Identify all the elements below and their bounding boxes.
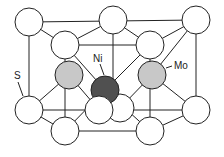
atom-s: [15, 96, 43, 124]
label-ni: Ni: [93, 54, 102, 64]
atom-s: [136, 117, 164, 145]
atom-s: [51, 31, 79, 59]
atom-s: [182, 6, 210, 34]
atom-s: [85, 96, 113, 124]
label-s: S: [14, 71, 21, 81]
atom-s: [15, 8, 43, 36]
crystal-structure-diagram: [0, 0, 224, 157]
atom-s: [51, 117, 79, 145]
atom-mo: [138, 61, 166, 89]
atom-s: [99, 6, 127, 34]
atom-s: [182, 96, 210, 124]
atom-mo: [55, 61, 83, 89]
atom-s: [136, 31, 164, 59]
label-mo: Mo: [174, 61, 188, 71]
